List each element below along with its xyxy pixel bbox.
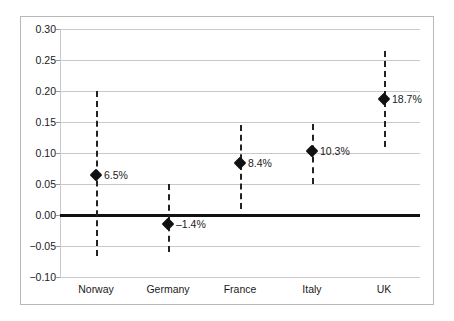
gridline [60,277,420,278]
gridline [60,246,420,247]
x-tick-label: Germany [146,284,189,295]
x-tick-label: Norway [78,284,114,295]
y-tick-mark [56,91,60,92]
y-tick-label: 0.10 [36,148,56,159]
data-point-label: 8.4% [248,158,272,169]
chart-figure: 0.300.250.200.150.100.050.00−0.05−0.10 6… [0,0,454,321]
data-marker[interactable] [234,157,247,170]
x-axis-labels: NorwayGermanyFranceItalyUK [60,284,420,300]
y-tick-label: 0.05 [36,179,56,190]
plot-area: 6.5%–1.4%8.4%10.3%18.7% [60,29,420,277]
data-marker[interactable] [306,145,319,158]
y-tick-mark [56,184,60,185]
gridline [60,60,420,61]
y-tick-mark [56,153,60,154]
x-tick-label: UK [377,284,392,295]
y-tick-label: 0.15 [36,117,56,128]
x-tick-label: France [224,284,257,295]
gridline [60,29,420,30]
y-tick-label: 0.00 [36,210,56,221]
x-tick-label: Italy [302,284,321,295]
y-tick-mark [56,60,60,61]
y-tick-mark [56,29,60,30]
y-tick-label: 0.25 [36,55,56,66]
data-marker[interactable] [90,168,103,181]
data-marker[interactable] [162,217,175,230]
y-tick-mark [56,246,60,247]
data-point-label: –1.4% [176,218,206,229]
y-tick-label: 0.20 [36,86,56,97]
y-tick-mark [56,277,60,278]
y-axis-labels: 0.300.250.200.150.100.050.00−0.05−0.10 [18,29,56,277]
data-point-label: 10.3% [320,146,350,157]
y-tick-mark [56,122,60,123]
y-tick-label: 0.30 [36,24,56,35]
gridline [60,122,420,123]
data-point-label: 6.5% [104,169,128,180]
y-tick-label: −0.05 [29,241,56,252]
y-tick-label: −0.10 [29,272,56,283]
gridline [60,91,420,92]
zero-reference-line [60,214,420,217]
data-point-label: 18.7% [392,94,422,105]
data-marker[interactable] [378,93,391,106]
